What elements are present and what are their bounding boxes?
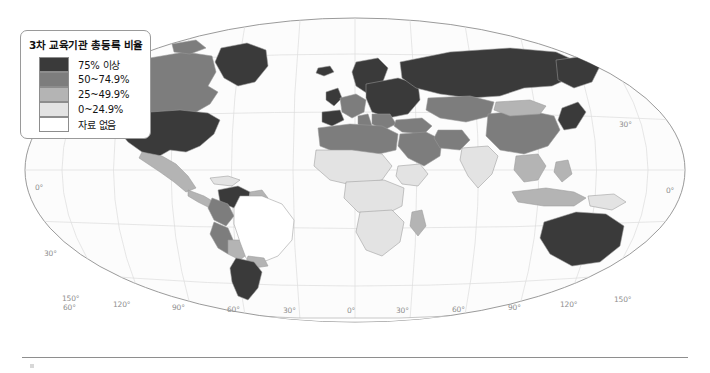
latitude-label: 0° bbox=[666, 186, 674, 195]
longitude-label: 120° bbox=[560, 300, 577, 309]
legend-swatch bbox=[39, 87, 69, 102]
latitude-label: 60° bbox=[63, 303, 76, 312]
latitude-label: 0° bbox=[35, 183, 43, 192]
legend-item-label: 50~74.9% bbox=[78, 74, 129, 85]
latitude-label: 30° bbox=[619, 120, 632, 129]
longitude-label: 90° bbox=[172, 303, 185, 312]
footer-divider bbox=[22, 357, 688, 358]
legend-swatch bbox=[39, 102, 69, 117]
legend-item-label: 0~24.9% bbox=[78, 104, 123, 115]
longitude-label: 150° bbox=[614, 295, 631, 304]
legend-item-label: 25~49.9% bbox=[78, 89, 129, 100]
longitude-label: 30° bbox=[396, 306, 409, 315]
footer-mark bbox=[30, 364, 34, 368]
longitude-label: 120° bbox=[113, 300, 130, 309]
map-page: 150° 120° 90° 60° 30° 0° 30° 60° 90° 120… bbox=[0, 0, 710, 373]
legend-swatch bbox=[39, 117, 69, 132]
map-legend: 3차 교육기관 총등록 비율 75% 이상 50~74.9% 25~49.9% … bbox=[20, 30, 151, 139]
legend-item: 0~24.9% bbox=[27, 102, 144, 117]
country-new-zealand bbox=[644, 250, 664, 272]
latitude-label: 30° bbox=[44, 249, 57, 258]
longitude-label: 30° bbox=[283, 306, 296, 315]
legend-item: 자료 없음 bbox=[27, 117, 144, 132]
legend-item: 75% 이상 bbox=[27, 57, 144, 72]
legend-title: 3차 교육기관 총등록 비율 bbox=[29, 37, 144, 52]
legend-item: 25~49.9% bbox=[27, 87, 144, 102]
legend-item-label: 75% 이상 bbox=[78, 57, 120, 72]
longitude-label: 0° bbox=[347, 306, 355, 315]
legend-swatch bbox=[39, 57, 69, 72]
legend-swatch bbox=[39, 72, 69, 87]
longitude-label: 60° bbox=[452, 305, 465, 314]
longitude-label: 150° bbox=[62, 294, 79, 303]
longitude-label: 90° bbox=[508, 303, 521, 312]
longitude-label: 60° bbox=[227, 305, 240, 314]
legend-item-label: 자료 없음 bbox=[78, 117, 116, 132]
legend-item: 50~74.9% bbox=[27, 72, 144, 87]
